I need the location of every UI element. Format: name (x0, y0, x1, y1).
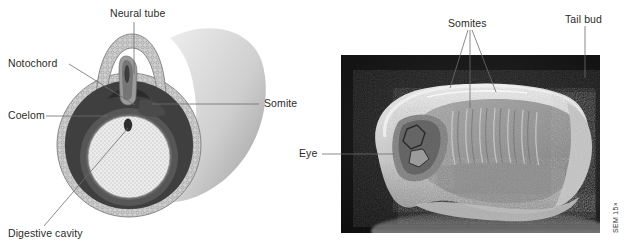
leader-digestive-cavity (44, 128, 128, 226)
coelom-cavity (65, 81, 193, 209)
label-notochord: Notochord (8, 58, 57, 69)
somite-block (138, 100, 166, 117)
embryo-body-mass (166, 28, 266, 202)
neural-fold-dome (96, 34, 166, 112)
sem-photo-frame (341, 55, 600, 233)
label-somite: Somite (264, 98, 297, 109)
notochord-body (119, 56, 137, 105)
embryo-development-figure: Neural tube Notochord Coelom Digestive c… (0, 0, 627, 246)
label-digestive-cavity: Digestive cavity (8, 228, 83, 239)
yolk-mass (88, 116, 170, 198)
digestive-cavity-lumen (124, 119, 132, 132)
diagram-leader-lines (44, 22, 259, 226)
label-neural-tube: Neural tube (110, 8, 165, 19)
endoderm-layer (80, 108, 178, 206)
label-coelom: Coelom (8, 110, 45, 121)
sem-photo-artwork (341, 55, 600, 233)
label-somites: Somites (448, 18, 487, 29)
magnification-label: SEM 15× (612, 202, 619, 233)
label-tail-bud: Tail bud (565, 14, 602, 25)
label-eye: Eye (299, 148, 317, 159)
neural-tube-lumen (124, 65, 129, 83)
leader-notochord (69, 64, 135, 105)
ectoderm-layer (57, 73, 201, 217)
embryo-specimen (375, 84, 592, 221)
